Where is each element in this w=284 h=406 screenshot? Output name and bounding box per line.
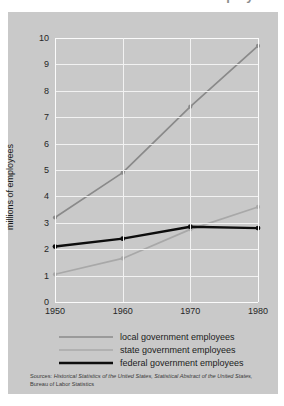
series-line: [55, 207, 258, 274]
gridline-horizontal: [55, 170, 258, 171]
gridline-horizontal: [55, 196, 258, 197]
gridline-horizontal: [55, 144, 258, 145]
legend-item-federal[interactable]: federal government employees: [8, 356, 278, 369]
gridline-vertical: [258, 38, 259, 302]
chart-figure: millions of employees 012345678910195019…: [8, 12, 278, 394]
source-note: Sources: Historical Statistics of the Un…: [30, 372, 270, 388]
gridline-horizontal: [55, 38, 258, 39]
plot-area: 0123456789101950196019701980: [55, 38, 258, 302]
gridline-horizontal: [55, 223, 258, 224]
legend-item-state[interactable]: state government employees: [8, 343, 278, 356]
y-tick-label: 1: [44, 271, 49, 281]
gridline-vertical: [190, 38, 191, 302]
legend-line-federal-icon: [59, 360, 113, 366]
gridline-horizontal: [55, 117, 258, 118]
legend-line-state-icon: [59, 347, 113, 353]
y-axis-label: millions of employees: [5, 144, 15, 230]
legend-swatch-state: [8, 347, 120, 353]
gridline-horizontal: [55, 249, 258, 250]
legend-label-local: local government employees: [120, 332, 235, 342]
chart-title-strip: ...nt employees: [0, 0, 284, 12]
gridline-vertical: [55, 38, 56, 302]
source-line-2: Bureau of Labor Statistics: [30, 381, 94, 387]
x-tick-label: 1980: [248, 306, 268, 316]
chart-legend: local government employees state governm…: [8, 330, 278, 369]
y-tick-label: 8: [44, 86, 49, 96]
gridline-horizontal: [55, 276, 258, 277]
series-line: [55, 46, 258, 218]
legend-item-local[interactable]: local government employees: [8, 330, 278, 343]
legend-label-federal: federal government employees: [120, 358, 244, 368]
y-tick-label: 7: [44, 112, 49, 122]
x-tick-label: 1970: [180, 306, 200, 316]
gridline-horizontal: [55, 91, 258, 92]
y-tick-label: 4: [44, 191, 49, 201]
y-tick-label: 3: [44, 218, 49, 228]
y-tick-label: 5: [44, 165, 49, 175]
legend-label-state: state government employees: [120, 345, 236, 355]
y-tick-label: 6: [44, 139, 49, 149]
y-tick-label: 9: [44, 59, 49, 69]
legend-line-local-icon: [59, 334, 113, 340]
source-prefix: Sources:: [30, 373, 52, 379]
y-tick-label: 2: [44, 244, 49, 254]
gridline-horizontal: [55, 302, 258, 303]
source-line-1: Historical Statistics of the United Stat…: [54, 373, 253, 379]
x-tick-label: 1950: [45, 306, 65, 316]
gridline-vertical: [123, 38, 124, 302]
legend-swatch-local: [8, 334, 120, 340]
page-title: ...nt employees: [179, 0, 276, 3]
y-tick-label: 10: [39, 33, 49, 43]
legend-swatch-federal: [8, 360, 120, 366]
gridline-horizontal: [55, 64, 258, 65]
x-tick-label: 1960: [113, 306, 133, 316]
